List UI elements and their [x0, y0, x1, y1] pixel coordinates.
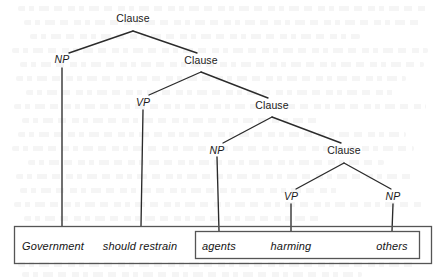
edge-clause3-clause4 — [272, 117, 341, 143]
edge-clause4-np3 — [344, 163, 391, 189]
leaf-agents: agents — [202, 240, 236, 252]
edge-clause3-np2 — [223, 117, 272, 143]
node-clause-2: Clause — [184, 54, 217, 66]
edge-np2-agents — [217, 157, 219, 231]
node-clause-3: Clause — [255, 99, 288, 111]
node-np-subject: NP — [55, 53, 70, 65]
edge-vp1-restrain — [141, 110, 143, 226]
leaf-should-restrain: should restrain — [103, 240, 177, 252]
edge-clause2-vp1 — [149, 72, 201, 95]
tree-edges-and-boxes — [0, 0, 442, 279]
node-clause-4: Clause — [327, 144, 360, 156]
syntax-tree-figure: Clause NP Clause VP Clause NP Clause VP … — [0, 0, 442, 279]
node-vp-1: VP — [136, 96, 150, 108]
node-np-others: NP — [386, 190, 401, 202]
node-vp-2: VP — [284, 190, 298, 202]
leaf-government: Government — [22, 240, 84, 252]
edge-clause2-clause3 — [201, 72, 268, 98]
edge-clause4-vp2 — [296, 163, 344, 189]
edge-clause1-clause2 — [133, 31, 197, 53]
edge-clause1-np1 — [69, 31, 133, 53]
leaf-others: others — [376, 240, 407, 252]
node-np-agents: NP — [210, 144, 225, 156]
tree-branches — [62, 31, 393, 231]
node-clause-root: Clause — [116, 12, 149, 24]
leaf-harming: harming — [271, 240, 312, 252]
